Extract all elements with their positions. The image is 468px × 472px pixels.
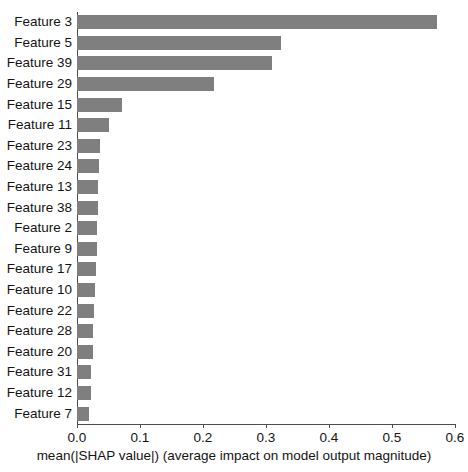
bar-rect	[77, 345, 93, 359]
bar-category-label: Feature 9	[14, 242, 72, 256]
bar-rect	[77, 283, 95, 297]
x-tick-label: 0.0	[68, 430, 87, 445]
bar-category-label: Feature 22	[7, 304, 72, 318]
bar-row: Feature 2	[77, 218, 455, 239]
bar-row: Feature 15	[77, 94, 455, 115]
bar-category-label: Feature 5	[14, 36, 72, 50]
bar-rect	[77, 242, 97, 256]
bar-row: Feature 9	[77, 239, 455, 260]
bar-row: Feature 12	[77, 383, 455, 404]
bar-rect	[77, 304, 94, 318]
bar-rect	[77, 324, 93, 338]
bar-category-label: Feature 12	[7, 386, 72, 400]
x-tick-label: 0.6	[446, 430, 465, 445]
bar-rect	[77, 56, 272, 70]
bar-rect	[77, 386, 91, 400]
bar-row: Feature 7	[77, 403, 455, 424]
bar-rect	[77, 139, 100, 153]
x-tick-label: 0.1	[131, 430, 150, 445]
bar-rect	[77, 98, 122, 112]
bar-category-label: Feature 3	[14, 16, 72, 30]
bar-rect	[77, 180, 98, 194]
x-tick-mark	[77, 424, 78, 428]
bar-category-label: Feature 38	[7, 201, 72, 215]
bar-row: Feature 10	[77, 280, 455, 301]
bar-row: Feature 23	[77, 136, 455, 157]
bar-category-label: Feature 11	[8, 119, 72, 133]
bar-category-label: Feature 39	[7, 57, 72, 71]
bar-rect	[77, 159, 99, 173]
bar-category-label: Feature 13	[7, 180, 72, 194]
x-tick-label: 0.3	[257, 430, 276, 445]
plot-area: Feature 3Feature 5Feature 39Feature 29Fe…	[77, 12, 455, 424]
bar-category-label: Feature 15	[7, 98, 72, 112]
bar-category-label: Feature 28	[7, 325, 72, 339]
bar-row: Feature 22	[77, 300, 455, 321]
bar-row: Feature 38	[77, 197, 455, 218]
bar-rect	[77, 15, 437, 29]
x-tick-mark	[203, 424, 204, 428]
bar-category-label: Feature 7	[14, 407, 72, 421]
bar-rect	[77, 221, 97, 235]
bar-category-label: Feature 20	[7, 345, 72, 359]
bar-rect	[77, 77, 214, 91]
bar-category-label: Feature 24	[7, 160, 72, 174]
bar-row: Feature 29	[77, 74, 455, 95]
bar-category-label: Feature 10	[7, 283, 72, 297]
bar-row: Feature 39	[77, 53, 455, 74]
shap-feature-importance-chart: Feature 3Feature 5Feature 39Feature 29Fe…	[0, 0, 468, 472]
bar-row: Feature 13	[77, 177, 455, 198]
bar-rect	[77, 201, 98, 215]
bar-rect	[77, 365, 91, 379]
bar-row: Feature 28	[77, 321, 455, 342]
bar-category-label: Feature 2	[14, 222, 72, 236]
bar-row: Feature 3	[77, 12, 455, 33]
bar-category-label: Feature 17	[7, 263, 72, 277]
bar-row: Feature 17	[77, 259, 455, 280]
bar-row: Feature 11	[77, 115, 455, 136]
bar-category-label: Feature 23	[7, 139, 72, 153]
x-tick-label: 0.4	[320, 430, 339, 445]
bar-rect	[77, 407, 89, 421]
x-tick-mark	[140, 424, 141, 428]
bar-rect	[77, 262, 96, 276]
x-tick-mark	[392, 424, 393, 428]
bar-rect	[77, 118, 109, 132]
bar-category-label: Feature 31	[7, 366, 72, 380]
bar-category-label: Feature 29	[7, 77, 72, 91]
x-tick-label: 0.2	[194, 430, 213, 445]
x-axis-title: mean(|SHAP value|) (average impact on mo…	[0, 448, 468, 463]
bar-row: Feature 31	[77, 362, 455, 383]
bar-row: Feature 24	[77, 156, 455, 177]
bar-rect	[77, 36, 281, 50]
bar-row: Feature 5	[77, 33, 455, 54]
bar-row: Feature 20	[77, 342, 455, 363]
x-tick-label: 0.5	[383, 430, 402, 445]
x-tick-mark	[266, 424, 267, 428]
x-tick-mark	[329, 424, 330, 428]
x-tick-mark	[455, 424, 456, 428]
